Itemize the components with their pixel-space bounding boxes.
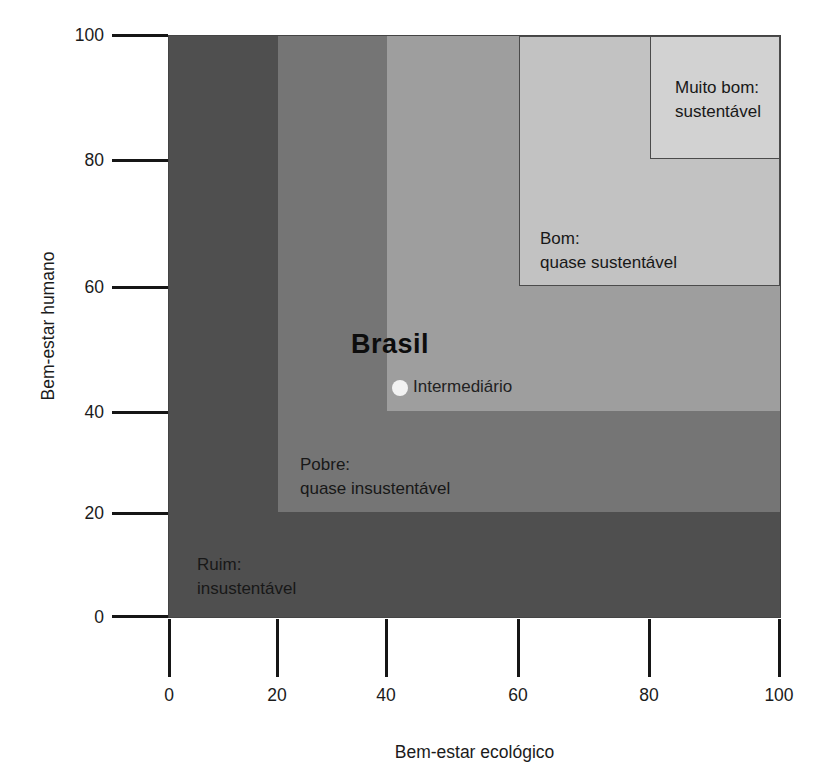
region-muito-bom-label-line1: Muito bom: xyxy=(675,76,761,100)
region-ruim-label-line1: Ruim: xyxy=(197,553,296,577)
x-tick-label-80: 80 xyxy=(619,684,679,706)
x-tick-80 xyxy=(648,619,651,677)
y-tick-label-0: 0 xyxy=(36,606,104,628)
region-bom-label-line2: quase sustentável xyxy=(540,251,677,275)
x-tick-label-40: 40 xyxy=(356,684,416,706)
region-pobre-label-line1: Pobre: xyxy=(300,453,450,477)
y-tick-60 xyxy=(112,286,168,289)
brasil-point-label: Brasil xyxy=(351,329,429,360)
y-tick-40 xyxy=(112,411,168,414)
region-muito-bom-label: Muito bom: sustentável xyxy=(675,76,761,124)
x-tick-100 xyxy=(778,619,781,677)
y-tick-20 xyxy=(112,512,168,515)
x-tick-20 xyxy=(276,619,279,677)
x-tick-0 xyxy=(168,619,171,677)
x-tick-40 xyxy=(385,619,388,677)
x-tick-label-20: 20 xyxy=(247,684,307,706)
y-axis-title: Bem-estar humano xyxy=(37,176,59,476)
sustainability-barometer-chart: Ruim: insustentável Pobre: quase insuste… xyxy=(0,0,820,781)
x-tick-label-60: 60 xyxy=(488,684,548,706)
y-tick-label-80: 80 xyxy=(36,149,104,171)
region-muito-bom-label-line2: sustentável xyxy=(675,100,761,124)
region-pobre-label-line2: quase insustentável xyxy=(300,477,450,501)
brasil-point-marker xyxy=(392,380,408,396)
region-ruim-label: Ruim: insustentável xyxy=(197,553,296,601)
x-tick-60 xyxy=(517,619,520,677)
y-tick-label-100: 100 xyxy=(36,24,104,46)
region-pobre-label: Pobre: quase insustentável xyxy=(300,453,450,501)
y-tick-0 xyxy=(112,615,168,618)
region-bom-label-line1: Bom: xyxy=(540,227,677,251)
y-tick-80 xyxy=(112,159,168,162)
region-bom-label: Bom: quase sustentável xyxy=(540,227,677,275)
x-tick-label-100: 100 xyxy=(749,684,809,706)
y-tick-100 xyxy=(112,34,168,37)
x-tick-label-0: 0 xyxy=(139,684,199,706)
y-tick-label-20: 20 xyxy=(36,502,104,524)
region-intermediario-label: Intermediário xyxy=(413,377,512,397)
plot-area: Ruim: insustentável Pobre: quase insuste… xyxy=(168,35,781,618)
region-ruim-label-line2: insustentável xyxy=(197,577,296,601)
x-axis-title: Bem-estar ecológico xyxy=(168,742,781,763)
